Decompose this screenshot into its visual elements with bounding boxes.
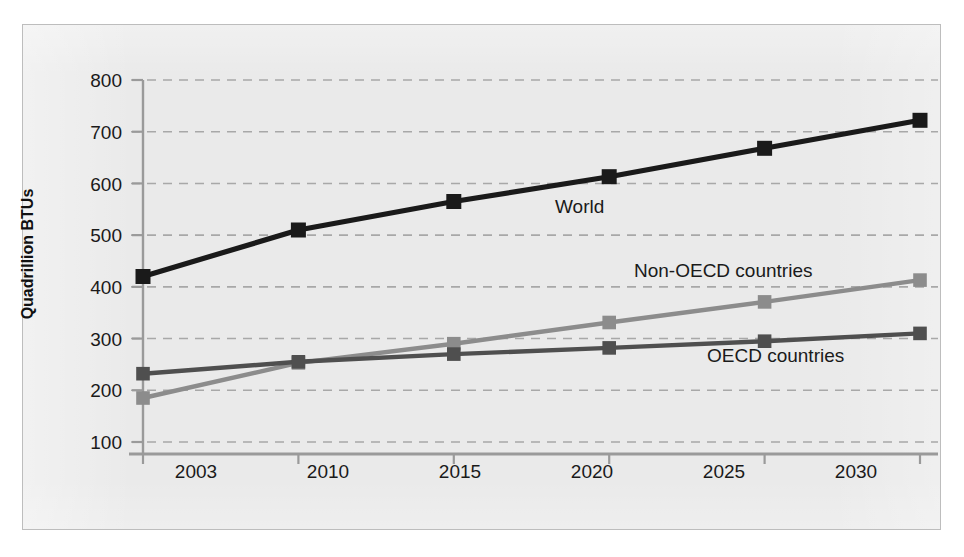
data-point-marker [447,347,461,361]
data-point-marker [602,169,617,184]
plot-area [0,0,964,557]
data-point-marker [291,223,306,238]
series-world [136,113,928,284]
data-series-layer [136,113,928,405]
data-point-marker [602,341,616,355]
chart-screenshot: Quadrillion BTUs 800 700 600 500 400 300… [0,0,964,557]
data-point-marker [136,269,151,284]
series-line [143,120,920,276]
data-point-marker [292,355,306,369]
data-point-marker [913,113,928,128]
data-point-marker [913,327,927,341]
data-point-marker [136,367,150,381]
data-point-marker [913,273,927,287]
data-point-marker [757,141,772,156]
data-point-marker [446,194,461,209]
data-point-marker [758,334,772,348]
gridlines [131,80,938,442]
data-point-marker [136,391,150,405]
data-point-marker [758,295,772,309]
series-line [143,333,920,373]
axis-lines [129,80,938,454]
data-point-marker [602,316,616,330]
axis-tick-marks [132,80,920,464]
